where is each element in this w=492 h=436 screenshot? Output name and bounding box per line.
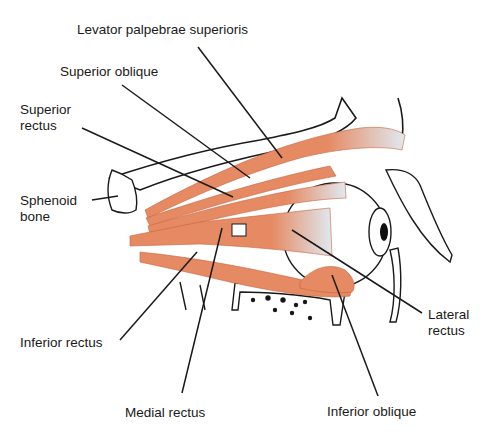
label-sphenoid-line2: bone [20, 209, 50, 225]
label-sphenoid-line1: Sphenoid [20, 193, 77, 209]
eye-muscle-diagram: Levator palpebrae superioris Superior ob… [0, 0, 492, 436]
label-medial-rectus: Medial rectus [125, 405, 205, 421]
leader-inferior-oblique [332, 275, 378, 396]
label-lateral-rectus-line1: Lateral [428, 307, 469, 323]
leader-levator [198, 47, 282, 158]
label-superior-rectus-line1: Superior [20, 102, 71, 118]
label-inferior-oblique: Inferior oblique [327, 404, 416, 420]
leader-medial-rectus [182, 228, 222, 393]
annular-tendon-opening [232, 224, 246, 236]
lateral-orbital-bone [386, 170, 452, 322]
label-lateral-rectus-line2: rectus [428, 323, 465, 339]
label-inferior-rectus: Inferior rectus [20, 335, 103, 351]
label-superior-rectus-line2: rectus [20, 118, 57, 134]
label-levator-palpebrae-superioris: Levator palpebrae superioris [77, 22, 248, 38]
label-superior-oblique: Superior oblique [60, 64, 158, 80]
